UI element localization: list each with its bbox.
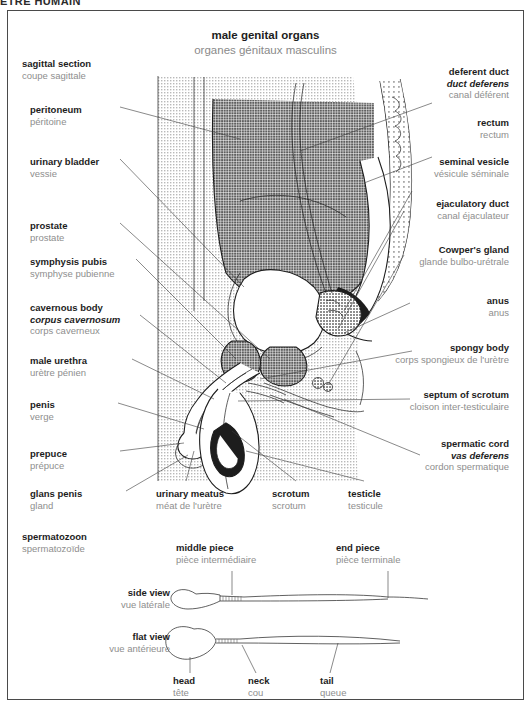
label-tail-fr: queue (320, 687, 346, 699)
label-middle-piece-fr: pièce intermédiaire (176, 554, 256, 566)
penis-shaft (176, 363, 261, 468)
label-tail-en: tail (320, 675, 346, 687)
label-peritoneum: peritoneum péritoine (30, 104, 82, 127)
label-prostate-fr: prostate (30, 232, 67, 244)
label-end-piece-en: end piece (336, 542, 400, 554)
label-scrotum-en: scrotum (272, 488, 309, 500)
label-end-piece: end piece pièce terminale (336, 542, 400, 565)
leader-lines-right (238, 103, 432, 455)
label-prepuce-en: prepuce (30, 448, 67, 460)
label-testicle-en: testicle (348, 488, 383, 500)
label-cavernous-body-en: cavernous body (30, 302, 120, 314)
label-head-en: head (173, 675, 195, 687)
label-urinary-bladder-en: urinary bladder (30, 156, 99, 168)
label-septum-of-scrotum: septum of scrotum cloison inter-testicul… (410, 389, 509, 412)
label-middle-piece-en: middle piece (176, 542, 256, 554)
label-cavernous-body: cavernous body corpus cavernosum corps c… (30, 302, 120, 337)
label-flat-view: flat view vue antérieure (104, 631, 170, 654)
anatomy-plate: male genital organs organes génitaux mas… (7, 10, 524, 700)
section-spermatozoon-label-en: spermatozoon (22, 531, 87, 543)
label-male-urethra: male urethra urètre pénien (30, 355, 87, 378)
label-scrotum-fr: scrotum (272, 500, 309, 512)
label-cavernous-body-fr: corps caverneux (30, 325, 120, 337)
label-septum-of-scrotum-fr: cloison inter-testiculaire (410, 401, 509, 413)
leader-lines-left (118, 107, 270, 491)
label-penis-en: penis (30, 399, 55, 411)
label-cowpers-gland-fr: glande bulbo-urétrale (419, 256, 509, 268)
label-prostate-en: prostate (30, 220, 67, 232)
prostate-gland (260, 347, 307, 386)
label-tail: tail queue (320, 675, 346, 698)
label-septum-of-scrotum-en: septum of scrotum (410, 389, 509, 401)
label-head: head tête (173, 675, 195, 698)
label-end-piece-fr: pièce terminale (336, 554, 400, 566)
label-spongy-body: spongy body corps spongieux de l'urètre (395, 342, 509, 365)
label-seminal-vesicle: seminal vesicle vésicule séminale (434, 156, 509, 179)
label-testicle: testicle testicule (348, 488, 383, 511)
label-symphysis-pubis-en: symphysis pubis (30, 256, 115, 268)
perineum (264, 351, 364, 417)
label-rectum-fr: rectum (477, 129, 509, 141)
anal-canal (334, 287, 373, 341)
label-seminal-vesicle-fr: vésicule séminale (434, 168, 509, 180)
label-deferent-duct-la: duct deferens (447, 78, 509, 90)
label-ejaculatory-duct-fr: canal éjaculateur (436, 210, 509, 222)
label-urinary-bladder: urinary bladder vessie (30, 156, 99, 179)
label-ejaculatory-duct-en: ejaculatory duct (436, 198, 509, 210)
section-sagittal-section: sagittal section coupe sagittale (22, 58, 91, 81)
label-glans-penis-en: glans penis (30, 488, 82, 500)
section-sagittal-label-fr: coupe sagittale (22, 70, 91, 82)
label-urinary-meatus-en: urinary meatus (156, 488, 224, 500)
label-cavernous-body-la: corpus cavernosum (30, 314, 120, 326)
label-spongy-body-fr: corps spongieux de l'urètre (395, 354, 509, 366)
label-male-urethra-en: male urethra (30, 355, 87, 367)
label-testicle-fr: testicule (348, 500, 383, 512)
label-urinary-bladder-fr: vessie (30, 168, 99, 180)
label-symphysis-pubis: symphysis pubis symphyse pubienne (30, 256, 115, 279)
label-seminal-vesicle-en: seminal vesicle (434, 156, 509, 168)
spermatozoon-flat-view (166, 627, 400, 673)
label-rectum: rectum rectum (477, 117, 509, 140)
label-urinary-meatus: urinary meatus méat de l'urètre (156, 488, 224, 511)
label-male-urethra-fr: urètre pénien (30, 367, 87, 379)
label-cowpers-gland: Cowper's gland glande bulbo-urétrale (419, 244, 509, 267)
label-ejaculatory-duct: ejaculatory duct canal éjaculateur (436, 198, 509, 221)
label-rectum-en: rectum (477, 117, 509, 129)
scrotum (200, 383, 286, 494)
label-glans-penis: glans penis gland (30, 488, 82, 511)
plate-title-en: male genital organs (8, 29, 523, 41)
label-prepuce: prepuce prépuce (30, 448, 67, 471)
urinary-bladder (228, 270, 325, 362)
label-penis-fr: verge (30, 411, 55, 423)
label-side-view-fr: vue latérale (104, 599, 170, 611)
label-deferent-duct-fr: canal déférent (447, 89, 509, 101)
label-neck-fr: cou (248, 687, 270, 699)
label-glans-penis-fr: gland (30, 500, 82, 512)
label-spongy-body-en: spongy body (395, 342, 509, 354)
label-spermatic-cord: spermatic cord vas deferens cordon sperm… (425, 438, 509, 473)
label-middle-piece: middle piece pièce intermédiaire (176, 542, 256, 565)
label-side-view-en: side view (104, 587, 170, 599)
label-spermatic-cord-la: vas deferens (425, 450, 509, 462)
label-anus-en: anus (487, 295, 509, 307)
body-mass (158, 76, 360, 481)
label-cowpers-gland-en: Cowper's gland (419, 244, 509, 256)
cowpers-gland (313, 378, 333, 392)
sacrum (366, 79, 412, 301)
label-prepuce-fr: prépuce (30, 460, 67, 472)
label-deferent-duct: deferent duct duct deferens canal défére… (447, 66, 509, 101)
label-spermatic-cord-en: spermatic cord (425, 438, 509, 450)
label-symphysis-pubis-fr: symphyse pubienne (30, 268, 115, 280)
label-side-view: side view vue latérale (104, 587, 170, 610)
label-neck: neck cou (248, 675, 270, 698)
label-peritoneum-en: peritoneum (30, 104, 82, 116)
section-spermatozoon-label-fr: spermatozoïde (22, 543, 87, 555)
label-spermatic-cord-fr: cordon spermatique (425, 461, 509, 473)
label-anus-fr: anus (487, 307, 509, 319)
label-flat-view-fr: vue antérieure (104, 643, 170, 655)
page-header: ÊTRE HUMAIN (0, 0, 531, 7)
label-anus: anus anus (487, 295, 509, 318)
label-prostate: prostate prostate (30, 220, 67, 243)
label-penis: penis verge (30, 399, 55, 422)
label-deferent-duct-en: deferent duct (447, 66, 509, 78)
